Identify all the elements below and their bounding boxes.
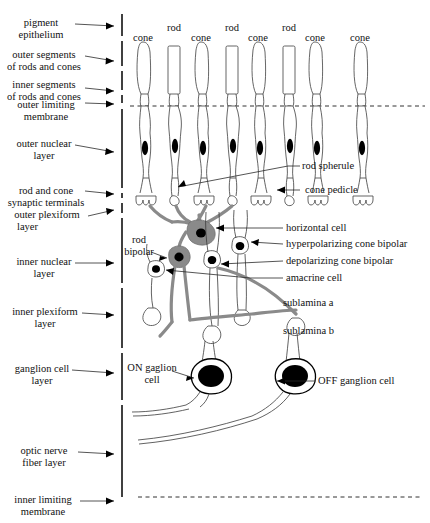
label-rod-spherule: rod spherule <box>302 160 354 172</box>
cone-3 <box>251 42 271 205</box>
label-line: bipolar <box>119 246 159 258</box>
label-amacrine-cell: amacrine cell <box>286 272 342 284</box>
label-line: membrane <box>6 111 86 123</box>
label-line: layer <box>5 221 89 233</box>
label-line: synaptic terminals <box>0 197 92 209</box>
label-line: rod and cone <box>0 185 92 197</box>
cone-1 <box>136 42 156 205</box>
label-line: of rods and cones <box>1 61 87 73</box>
photoreceptor-label-rod-3: rod <box>276 22 302 34</box>
label-line: inner segments <box>1 79 87 91</box>
rod-3 <box>283 46 296 206</box>
photoreceptor-label-cone-5: cone <box>347 32 373 44</box>
label-outer-nuclear-layer: outer nuclear layer <box>6 138 82 161</box>
label-line: outer nuclear <box>6 138 82 150</box>
label-line: layer <box>6 268 82 280</box>
label-on-ganglion-cell: ON gaglion cell <box>124 362 180 385</box>
label-inner-plexiform-layer: inner plexiform layer <box>4 306 86 329</box>
label-sublamina-a: sublamina a <box>283 297 333 309</box>
retina-diagram: pigment epithelium outer segments of rod… <box>0 0 430 523</box>
label-synaptic-terminals: rod and cone synaptic terminals <box>0 185 92 208</box>
label-optic-nerve-fiber-layer: optic nerve fiber layer <box>6 445 82 468</box>
label-line: membrane <box>2 506 84 518</box>
label-sublamina-b: sublamina b <box>283 325 334 337</box>
photoreceptor-label-cone-3: cone <box>245 32 271 44</box>
photoreceptor-label-cone-4: cone <box>302 32 328 44</box>
photoreceptor-label-rod-1: rod <box>161 22 187 34</box>
label-line: ganglion cell <box>4 363 80 375</box>
label-line: layer <box>6 150 82 162</box>
label-outer-plexiform-layer: outer plexiform layer <box>5 209 89 232</box>
label-outer-limiting-membrane: outer limiting membrane <box>6 99 86 122</box>
label-inner-limiting-membrane: inner limiting membrane <box>2 494 84 517</box>
label-line: outer segments <box>1 49 87 61</box>
horizontal-cell <box>187 220 215 245</box>
label-outer-segments: outer segments of rods and cones <box>1 49 87 72</box>
label-line: layer <box>4 318 86 330</box>
label-off-ganglion-cell: OFF ganglion cell <box>318 375 394 387</box>
photoreceptor-label-rod-2: rod <box>219 22 245 34</box>
photoreceptor-layer <box>136 42 373 206</box>
rod-2 <box>226 46 239 206</box>
label-line: outer plexiform <box>5 209 89 221</box>
label-line: optic nerve <box>6 445 82 457</box>
label-pigment-epithelium: pigment epithelium <box>6 17 76 40</box>
label-ganglion-cell-layer: ganglion cell layer <box>4 363 80 386</box>
label-horizontal-cell: horizontal cell <box>286 222 346 234</box>
photoreceptor-label-cone-2: cone <box>188 32 214 44</box>
cone-4 <box>308 42 328 205</box>
label-line: inner plexiform <box>4 306 86 318</box>
label-depolarizing-cone-bipolar: depolarizing cone bipolar <box>286 255 393 267</box>
rod-1 <box>168 46 181 206</box>
label-line: ON gaglion <box>124 362 180 374</box>
label-line: fiber layer <box>6 457 82 469</box>
label-line: inner nuclear <box>6 256 82 268</box>
photoreceptor-label-cone-1: cone <box>130 32 156 44</box>
cone-5 <box>353 42 373 205</box>
hyperpolarizing-cone-bipolar-cell <box>232 210 249 310</box>
label-line: epithelium <box>6 29 76 41</box>
label-rod-bipolar: rod bipolar <box>119 234 159 257</box>
label-inner-nuclear-layer: inner nuclear layer <box>6 256 82 279</box>
label-line: cell <box>124 374 180 386</box>
rod-bipolar-cell <box>169 232 191 322</box>
label-cone-pedicle: cone pedicle <box>305 184 358 196</box>
label-line: inner limiting <box>2 494 84 506</box>
label-line: outer limiting <box>6 99 86 111</box>
label-line: pigment <box>6 17 76 29</box>
label-line: layer <box>4 375 80 387</box>
label-hyperpolarizing-cone-bipolar: hyperpolarizing cone bipolar <box>286 238 407 250</box>
label-line: rod <box>119 234 159 246</box>
